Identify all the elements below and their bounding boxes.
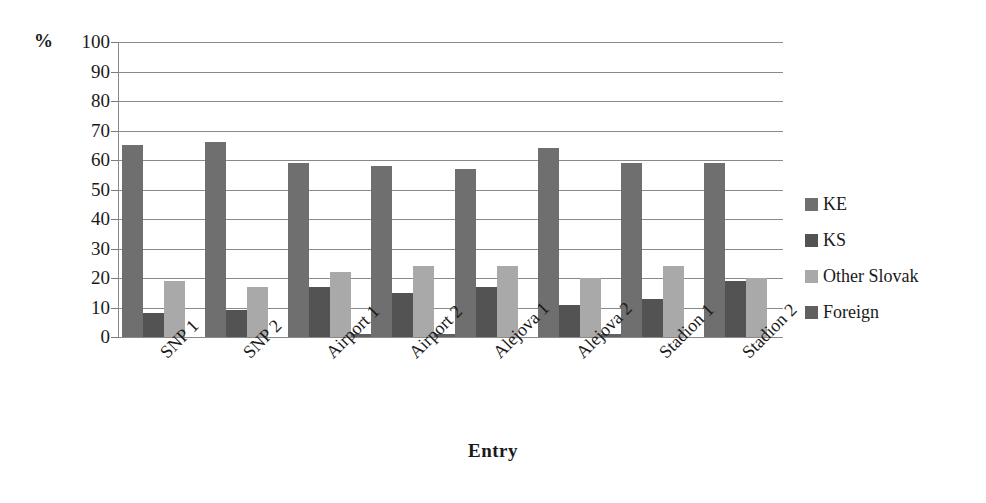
bar	[476, 287, 497, 337]
legend-item[interactable]: Foreign	[805, 294, 980, 330]
bar	[122, 145, 143, 337]
y-axis-tick	[111, 219, 118, 220]
y-axis-tick	[111, 42, 118, 43]
bar	[205, 142, 226, 337]
y-axis-tick	[111, 190, 118, 191]
bar-group	[700, 42, 783, 337]
legend-swatch-icon	[805, 306, 818, 319]
legend-label: Foreign	[823, 303, 879, 321]
y-axis-tick	[111, 72, 118, 73]
bar	[288, 163, 309, 337]
y-axis-tick-label: 100	[48, 32, 110, 51]
chart-legend: KEKSOther SlovakForeign	[805, 186, 980, 330]
y-axis-tick	[111, 249, 118, 250]
y-axis-tick-label: 60	[48, 150, 110, 169]
bar-group	[534, 42, 617, 337]
bar-group	[451, 42, 534, 337]
bar	[559, 305, 580, 337]
y-axis-tick-label: 90	[48, 62, 110, 81]
bar	[309, 287, 330, 337]
legend-item[interactable]: KE	[805, 186, 980, 222]
y-axis-tick-label: 30	[48, 239, 110, 258]
bar	[226, 310, 247, 337]
legend-swatch-icon	[805, 198, 818, 211]
y-axis-tick-label: 80	[48, 91, 110, 110]
x-axis-tick-labels: SNP 1SNP 2Airport 1Airport 2Alejova 1Ale…	[118, 338, 783, 438]
legend-swatch-icon	[805, 234, 818, 247]
y-axis-tick	[111, 131, 118, 132]
plot-area	[118, 42, 783, 337]
y-axis-tick-label: 20	[48, 268, 110, 287]
bar-chart: % 1009080706050403020100 SNP 1SNP 2Airpo…	[0, 0, 986, 503]
bar	[642, 299, 663, 337]
y-axis-tick	[111, 101, 118, 102]
x-axis-title: Entry	[0, 440, 986, 462]
bar-group	[118, 42, 201, 337]
bar-groups	[118, 42, 783, 337]
y-axis-tick	[111, 278, 118, 279]
bar-group	[284, 42, 367, 337]
legend-item[interactable]: Other Slovak	[805, 258, 980, 294]
legend-label: KS	[823, 231, 846, 249]
bar	[725, 281, 746, 337]
y-axis-tick	[111, 308, 118, 309]
bar	[392, 293, 413, 337]
y-axis-tick-label: 70	[48, 121, 110, 140]
y-axis-tick-label: 40	[48, 209, 110, 228]
y-axis-tick-label: 10	[48, 298, 110, 317]
bar	[143, 313, 164, 337]
bar-group	[201, 42, 284, 337]
y-axis-tick	[111, 337, 118, 338]
legend-label: KE	[823, 195, 847, 213]
bar-group	[367, 42, 450, 337]
legend-swatch-icon	[805, 270, 818, 283]
legend-label: Other Slovak	[823, 267, 918, 285]
bar-group	[617, 42, 700, 337]
legend-item[interactable]: KS	[805, 222, 980, 258]
y-axis-tick-label: 0	[48, 327, 110, 346]
y-axis-tick-label: 50	[48, 180, 110, 199]
y-axis-tick	[111, 160, 118, 161]
